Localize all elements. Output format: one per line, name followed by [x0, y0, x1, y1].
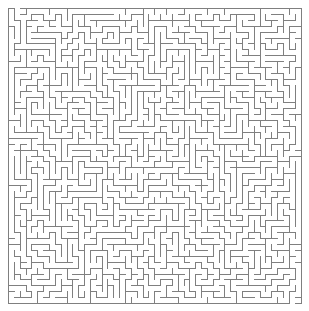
- maze-canvas: [0, 0, 309, 311]
- maze-figure: Rectangular perfect maze A dense square …: [0, 0, 309, 311]
